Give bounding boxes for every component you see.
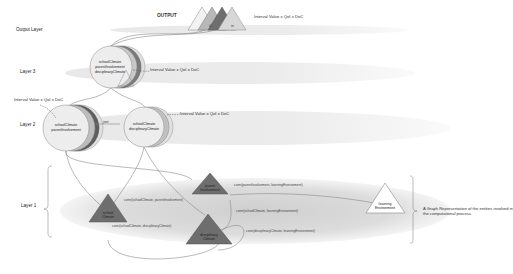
parent-involvement-label-2: Involvement (200, 188, 219, 192)
layer2-band (50, 111, 450, 145)
layer2-node-a-line2: parentInvolvement (51, 128, 81, 132)
edge-label-parent-learning: conn(parentInvolvement, learningEnvironm… (234, 183, 303, 187)
layer2-link-label: joint (103, 120, 109, 124)
layer1-brace (44, 166, 52, 237)
layer3-node-line2: parentInvolvement (95, 65, 125, 69)
output-tn: tn (231, 24, 234, 28)
output-triangles (188, 7, 246, 30)
layer3-formula: Interval Value x QoI x DoC (150, 67, 199, 72)
layer-label-output: Output Layer (16, 27, 43, 32)
output-t1: t1 (209, 24, 212, 28)
output-formula: Interval Value x QoI x DoC (254, 14, 303, 19)
layer-label-1: Layer 1 (21, 203, 36, 208)
layer2-formula-right: Interval Value x QoI x DoC (180, 111, 229, 116)
layer2-node-b-line2: disciplinaryClimate (129, 127, 159, 131)
edge-label-school-learning: conn(schoolClimate, learningEnvironment) (236, 209, 298, 213)
edge-label-disciplinary-learning: conn(disciplinaryClimate, learningEnviro… (246, 229, 315, 233)
learning-environment-label-2: Environment (375, 206, 395, 210)
layer3-node-line3: disciplinaryClimate (95, 70, 125, 74)
edge-label-school-parent: conn(schoolClimate, parentInvolvement) (124, 198, 183, 202)
school-climate-label-2: Climate (102, 215, 114, 219)
layer2-formula-left: Interval Value x QoI x DoC (14, 97, 63, 102)
edge-label-school-disciplinary: conn(schoolClimate, disciplinaryClimate) (112, 224, 171, 228)
layer-label-2: Layer 2 (20, 122, 35, 127)
diagram-caption: A Graph Representation of the entities i… (423, 206, 513, 216)
layer-label-3: Layer 3 (20, 69, 35, 74)
layer3-node-line1: schoolClimate (99, 60, 122, 64)
output-layer-band (110, 25, 410, 35)
disciplinary-climate-label-2: Climate (203, 237, 215, 241)
layer2-node-a-line1: schoolClimate (55, 123, 78, 127)
layer2-node-b-line1: schoolClimate (133, 122, 156, 126)
output-title: OUTPUT (157, 13, 177, 18)
